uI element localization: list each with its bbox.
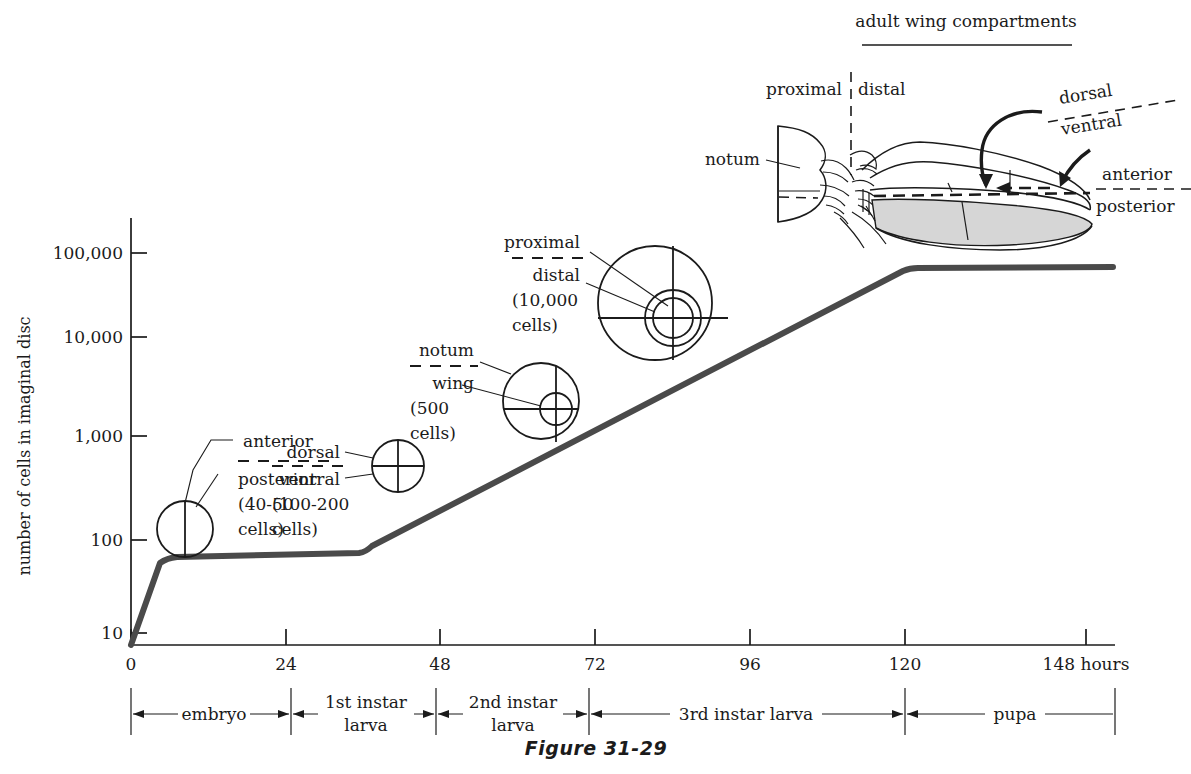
disc3-label-bottom: wing bbox=[432, 373, 474, 393]
x-tick-label-2: 48 bbox=[429, 654, 451, 674]
wing-label-anterior: anterior bbox=[1102, 164, 1173, 184]
x-tick-label-4: 96 bbox=[739, 654, 761, 674]
disc2-label-top: dorsal bbox=[286, 442, 340, 462]
wing-label-notum: notum bbox=[705, 149, 760, 169]
y-tick-label-2: 1,000 bbox=[74, 426, 123, 446]
disc3-count-line2: cells) bbox=[410, 423, 456, 443]
x-tick-label-0: 0 bbox=[126, 654, 137, 674]
y-tick-label-4: 10 bbox=[101, 623, 123, 643]
disc-notum-wing bbox=[462, 362, 579, 442]
disc4-label-bottom: distal bbox=[533, 265, 580, 285]
figure-container: 100,000 10,000 1,000 100 10 number of ce… bbox=[0, 0, 1191, 774]
x-tick-label-1: 24 bbox=[275, 654, 297, 674]
wing-label-dorsal: dorsal bbox=[1057, 80, 1113, 108]
disc-dorsal-ventral bbox=[345, 440, 424, 492]
adult-wing-diagram: adult wing compartments proximal distal bbox=[705, 11, 1191, 250]
stage-label-3rd-instar: 3rd instar larva bbox=[679, 704, 813, 724]
stage-label-2nd-instar-line1: 2nd instar bbox=[469, 692, 558, 712]
anterior-posterior-boundary bbox=[874, 193, 1090, 196]
disc2-count-line2: cells) bbox=[272, 519, 318, 539]
figure-svg: 100,000 10,000 1,000 100 10 number of ce… bbox=[0, 0, 1191, 774]
y-axis-label: number of cells in imaginal disc bbox=[15, 316, 34, 575]
disc2-label-bottom: ventral bbox=[278, 469, 340, 489]
stage-label-pupa: pupa bbox=[994, 704, 1037, 724]
wing-label-ventral: ventral bbox=[1059, 110, 1124, 139]
figure-caption: Figure 31-29 bbox=[525, 737, 667, 759]
y-tick-label-1: 10,000 bbox=[64, 327, 123, 347]
x-tick-label-5: 120 bbox=[889, 654, 921, 674]
disc-proximal-distal bbox=[586, 246, 728, 360]
wing-diagram-title: adult wing compartments bbox=[855, 11, 1076, 31]
notum-leader-line bbox=[766, 160, 800, 168]
y-tick-label-3: 100 bbox=[91, 530, 123, 550]
wing-label-posterior: posterior bbox=[1096, 196, 1176, 216]
stage-label-1st-instar-line2: larva bbox=[344, 715, 387, 735]
disc4-label-top: proximal bbox=[504, 232, 580, 252]
x-tick-label-6: 148 hours bbox=[1043, 654, 1130, 674]
stage-label-1st-instar-line1: 1st instar bbox=[325, 692, 408, 712]
disc3-label-top: notum bbox=[419, 340, 474, 360]
x-axis bbox=[131, 629, 1115, 645]
disc3-count-line1: (500 bbox=[410, 398, 449, 418]
growth-curve bbox=[131, 267, 1113, 645]
posterior-compartment-shaded bbox=[872, 199, 1092, 245]
disc2-count-line1: (100-200 bbox=[272, 494, 349, 514]
disc4-count-line2: cells) bbox=[512, 315, 558, 335]
stage-brackets bbox=[131, 688, 1115, 735]
stage-label-embryo: embryo bbox=[181, 704, 246, 724]
wing-label-proximal: proximal bbox=[766, 79, 842, 99]
y-tick-label-0: 100,000 bbox=[53, 243, 123, 263]
stage-label-2nd-instar-line2: larva bbox=[491, 715, 534, 735]
x-tick-label-3: 72 bbox=[584, 654, 606, 674]
y-axis bbox=[131, 218, 147, 645]
disc-anterior-posterior bbox=[157, 440, 233, 557]
wing-label-distal: distal bbox=[858, 79, 905, 99]
disc4-count-line1: (10,000 bbox=[512, 290, 578, 310]
